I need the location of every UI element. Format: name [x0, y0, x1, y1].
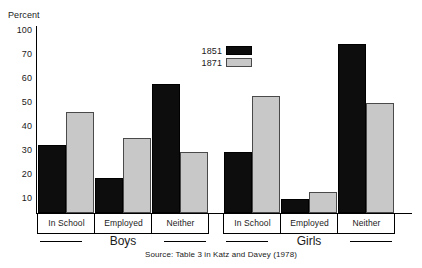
- y-axis-tick-label: 20: [0, 170, 32, 179]
- group-rule-left: [226, 241, 268, 242]
- gray-swatch: [226, 58, 252, 67]
- y-axis-line: [36, 26, 37, 214]
- category-label-boys-neither: Neither: [152, 218, 209, 228]
- bar-boys-employed-1851: [95, 178, 123, 213]
- y-axis-tick-label: 40: [0, 122, 32, 131]
- bar-girls-employed-1871: [309, 192, 337, 213]
- group-rule-right: [164, 241, 206, 242]
- bar-boys-neither-1851: [152, 84, 180, 213]
- bar-boys-neither-1871: [180, 152, 208, 213]
- black-swatch: [226, 46, 252, 55]
- category-label-boys-employed: Employed: [95, 218, 152, 228]
- legend-label: 1851: [202, 46, 222, 56]
- bar-girls-neither-1851: [338, 44, 366, 213]
- source-caption: Source: Table 3 in Katz and Davey (1978): [145, 250, 297, 259]
- bar-chart: Percent 100 70 60 50 40 30 20 10 1851 18…: [0, 0, 422, 268]
- category-label-boys-in-school: In School: [38, 218, 95, 228]
- bar-boys-employed-1871: [123, 138, 151, 213]
- category-label-girls-in-school: In School: [224, 218, 281, 228]
- category-label-girls-neither: Neither: [338, 218, 395, 228]
- y-axis-tick-label: 60: [0, 74, 32, 83]
- y-axis-title: Percent: [8, 10, 40, 20]
- y-axis-tick-label: 50: [0, 98, 32, 107]
- bar-girls-in-school-1871: [252, 96, 280, 213]
- y-axis-tick-label: 70: [0, 50, 32, 59]
- y-axis-tick-label: 30: [0, 146, 32, 155]
- bar-girls-employed-1851: [281, 199, 309, 213]
- group-rule-right: [350, 241, 392, 242]
- legend-label: 1871: [202, 58, 222, 68]
- group-rule-left: [40, 241, 82, 242]
- y-axis-tick-label: 100: [0, 26, 32, 35]
- bar-boys-in-school-1871: [66, 112, 94, 213]
- group-label-boys: Boys: [82, 234, 164, 248]
- bar-boys-in-school-1851: [38, 145, 66, 213]
- legend-item-1851: 1851: [186, 46, 252, 56]
- category-label-girls-employed: Employed: [281, 218, 338, 228]
- bar-girls-in-school-1851: [224, 152, 252, 213]
- bar-girls-neither-1871: [366, 103, 394, 213]
- legend-item-1871: 1871: [186, 58, 252, 68]
- y-axis-tick-label: 10: [0, 194, 32, 203]
- group-label-girls: Girls: [268, 234, 350, 248]
